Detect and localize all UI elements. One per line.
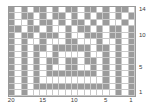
knitting-chart: 141051 20151051: [0, 0, 152, 112]
row-tick-label: 14: [139, 6, 146, 12]
column-tick-label: 1: [129, 97, 132, 104]
column-tick-label: 20: [8, 97, 15, 104]
column-tick-label: 15: [39, 97, 46, 104]
row-axis: 141051: [136, 6, 152, 96]
chart-grid[interactable]: [8, 6, 136, 97]
row-tick-label: 10: [139, 32, 146, 38]
column-tick-label: 5: [104, 97, 107, 104]
row-tick-label: 5: [139, 64, 142, 70]
column-tick-label: 10: [71, 97, 78, 104]
column-axis: 20151051: [8, 97, 140, 109]
row-tick-label: 1: [139, 89, 142, 95]
chart-cell[interactable]: [129, 90, 135, 96]
